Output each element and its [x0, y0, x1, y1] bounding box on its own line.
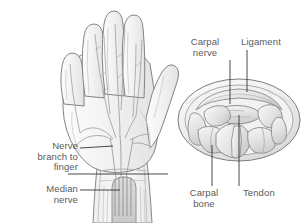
carpal-bone-far-right	[271, 117, 286, 144]
label-tendon: Tendon	[243, 188, 297, 199]
tendon-center	[231, 126, 241, 158]
label-ligament: Ligament	[241, 37, 303, 48]
finger-little	[61, 53, 84, 106]
carpal-tunnel-figure: Nerve branch to finger Median nerve Carp…	[0, 0, 306, 223]
label-carpal-bone: Carpal bone	[176, 188, 232, 209]
carpal-bone-left-upper	[204, 106, 230, 127]
median-nerve-dome	[112, 177, 136, 223]
finger-ring	[82, 24, 105, 98]
label-nerve-branch-to-finger: Nerve branch to finger	[2, 141, 78, 173]
label-carpal-nerve: Carpal nerve	[178, 37, 232, 58]
label-median-nerve: Median nerve	[2, 184, 78, 205]
palm-view-of-hand	[61, 11, 179, 223]
finger-middle	[102, 11, 125, 96]
